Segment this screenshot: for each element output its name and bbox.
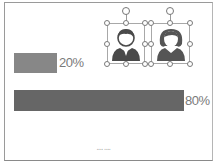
footer-text: ▪▪▪▪ ▪▪▪▪ <box>97 147 111 151</box>
bar-80-percent[interactable] <box>14 90 184 111</box>
bar-label-80: 80% <box>185 93 210 108</box>
bar-label-20: 20% <box>59 55 84 70</box>
rotate-handle-female[interactable] <box>166 7 174 15</box>
rotate-handle-male[interactable] <box>122 7 130 15</box>
bar-20-percent[interactable] <box>14 53 57 73</box>
male-person-icon[interactable] <box>110 26 142 62</box>
female-person-icon[interactable] <box>155 26 187 62</box>
